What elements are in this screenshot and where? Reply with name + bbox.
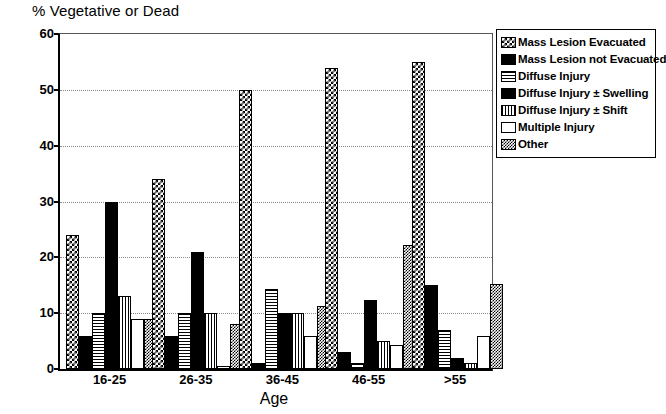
gridline <box>60 202 492 203</box>
stipple-swatch-icon <box>501 139 516 150</box>
y-axis: 0102030405060 <box>14 33 54 368</box>
x-axis-tick-label: 26-35 <box>179 372 212 387</box>
bar <box>217 366 230 369</box>
vertical-lines-swatch-icon <box>501 105 516 116</box>
y-axis-tick-label: 30 <box>20 193 54 208</box>
bar <box>178 313 191 369</box>
bar <box>66 235 79 369</box>
legend-item-label: Diffuse Injury <box>518 71 590 83</box>
bar <box>490 284 503 369</box>
bar <box>92 313 105 369</box>
x-axis-tick-label: 16-25 <box>93 372 126 387</box>
plot-area <box>58 33 493 371</box>
y-axis-tick-label: 60 <box>20 26 54 41</box>
checker-swatch-icon <box>501 37 516 48</box>
solid-black-swatch-icon <box>501 54 516 65</box>
plot-inner <box>60 34 492 369</box>
bar <box>377 341 390 369</box>
bar <box>325 68 338 370</box>
legend-item: Diffuse Injury ± Shift <box>501 102 652 119</box>
bar <box>438 330 451 369</box>
y-axis-tick-label: 20 <box>20 249 54 264</box>
horizontal-lines-swatch-icon <box>501 71 516 82</box>
gridline <box>60 90 492 91</box>
bar <box>191 252 204 369</box>
legend-item: Mass Lesion not Evacuated <box>501 51 652 68</box>
bar <box>79 336 92 370</box>
y-axis-tick-label: 50 <box>20 81 54 96</box>
bar <box>351 363 364 369</box>
bar <box>338 352 351 369</box>
x-axis-tick-label: 46-55 <box>352 372 385 387</box>
x-axis-tick-label: 36-45 <box>266 372 299 387</box>
bar <box>165 336 178 370</box>
legend-item: Diffuse Injury ± Swelling <box>501 85 652 102</box>
bar <box>364 300 377 369</box>
bar <box>464 363 477 369</box>
bar <box>131 319 144 369</box>
bar <box>390 345 403 369</box>
legend-item-label: Diffuse Injury ± Swelling <box>518 88 648 100</box>
bar <box>118 296 131 369</box>
bar <box>291 313 304 369</box>
bar <box>265 289 278 369</box>
bar <box>239 90 252 369</box>
bar <box>451 358 464 369</box>
legend-item: Mass Lesion Evacuated <box>501 34 652 51</box>
bar <box>278 313 291 369</box>
legend-item: Multiple Injury <box>501 119 652 136</box>
gridline <box>60 146 492 147</box>
x-axis-title: Age <box>58 390 490 408</box>
legend-item: Other <box>501 136 652 153</box>
y-axis-tick-label: 0 <box>20 361 54 376</box>
gridline <box>60 257 492 258</box>
solid-black-swatch-icon <box>501 88 516 99</box>
legend-item-label: Diffuse Injury ± Shift <box>518 105 628 117</box>
chart-title: % Vegetative or Dead <box>32 2 179 19</box>
bar <box>204 313 217 369</box>
legend-item-label: Mass Lesion not Evacuated <box>518 54 666 66</box>
bar <box>412 62 425 369</box>
white-swatch-icon <box>501 122 516 133</box>
legend-item-label: Other <box>518 139 548 151</box>
bar <box>252 363 265 369</box>
bar <box>152 179 165 369</box>
bar <box>477 336 490 370</box>
bar <box>304 336 317 370</box>
y-axis-tick-label: 10 <box>20 305 54 320</box>
legend-item-label: Mass Lesion Evacuated <box>518 37 646 49</box>
y-axis-tick-label: 40 <box>20 137 54 152</box>
legend: Mass Lesion EvacuatedMass Lesion not Eva… <box>496 29 656 158</box>
legend-item-label: Multiple Injury <box>518 122 594 134</box>
bar <box>105 202 118 370</box>
x-axis-tick-label: >55 <box>444 372 466 387</box>
bar <box>425 285 438 369</box>
legend-item: Diffuse Injury <box>501 68 652 85</box>
